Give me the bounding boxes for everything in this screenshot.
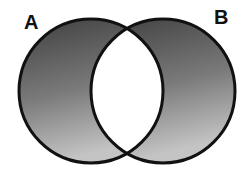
set-b-label: B (214, 7, 228, 27)
venn-diagram: A B (0, 0, 251, 173)
set-a-label: A (24, 12, 38, 32)
